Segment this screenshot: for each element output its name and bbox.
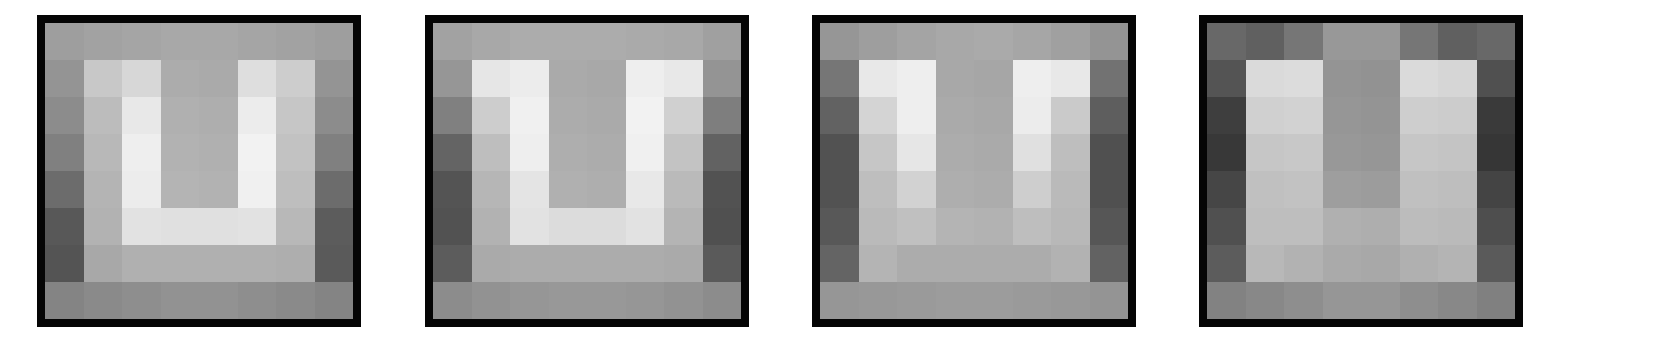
pixel-cell xyxy=(510,23,549,60)
pixel-cell xyxy=(45,208,84,245)
pixel-cell xyxy=(315,245,354,282)
pixel-cell xyxy=(1477,23,1516,60)
pixel-cell xyxy=(472,23,511,60)
pixel-cell xyxy=(587,208,626,245)
pixel-cell xyxy=(122,282,161,319)
pixel-cell xyxy=(276,134,315,171)
pixel-cell xyxy=(587,97,626,134)
pixel-cell xyxy=(626,282,665,319)
pixel-cell xyxy=(1013,282,1052,319)
pixel-cell xyxy=(1438,97,1477,134)
pixel-cell xyxy=(199,171,238,208)
pixel-cell xyxy=(549,60,588,97)
pixel-cell xyxy=(1051,208,1090,245)
pixel-cell xyxy=(897,134,936,171)
pixel-cell xyxy=(238,97,277,134)
pixel-cell xyxy=(820,97,859,134)
pixel-cell xyxy=(549,171,588,208)
pixel-cell xyxy=(1246,171,1285,208)
pixel-cell xyxy=(1361,245,1400,282)
pixel-cell xyxy=(1207,208,1246,245)
pixel-grid-2 xyxy=(425,15,749,327)
pixel-cell xyxy=(510,97,549,134)
pixel-cell xyxy=(1361,60,1400,97)
pixel-cell xyxy=(472,134,511,171)
pixel-cell xyxy=(587,60,626,97)
pixel-cell xyxy=(45,282,84,319)
pixel-cell xyxy=(276,245,315,282)
pixel-cell xyxy=(664,97,703,134)
pixel-cell xyxy=(859,97,898,134)
pixel-cell xyxy=(276,171,315,208)
pixel-cell xyxy=(549,134,588,171)
pixel-cell xyxy=(84,208,123,245)
pixel-cell xyxy=(276,97,315,134)
pixel-cell xyxy=(84,171,123,208)
pixel-cell xyxy=(1207,23,1246,60)
pixel-cell xyxy=(1477,208,1516,245)
pixel-cell xyxy=(820,208,859,245)
pixel-cell xyxy=(974,60,1013,97)
pixel-cell xyxy=(1051,171,1090,208)
pixel-cell xyxy=(433,60,472,97)
pixel-cell xyxy=(433,282,472,319)
pixel-cell xyxy=(1284,97,1323,134)
pixel-cell xyxy=(472,282,511,319)
pixel-cell xyxy=(315,208,354,245)
pixel-cell xyxy=(820,23,859,60)
pixel-cell xyxy=(587,245,626,282)
pixel-cell xyxy=(84,23,123,60)
pixel-cell xyxy=(587,23,626,60)
pixel-cell xyxy=(626,208,665,245)
pixel-cell xyxy=(820,60,859,97)
pixel-cell xyxy=(45,245,84,282)
pixel-cell xyxy=(1246,282,1285,319)
pixel-cell xyxy=(1400,208,1439,245)
pixel-cell xyxy=(199,23,238,60)
pixel-cell xyxy=(549,208,588,245)
pixel-cell xyxy=(1438,282,1477,319)
pixel-cell xyxy=(859,282,898,319)
pixel-cell xyxy=(1323,60,1362,97)
pixel-cell xyxy=(1361,282,1400,319)
pixel-cell xyxy=(1361,208,1400,245)
pixel-cell xyxy=(1477,171,1516,208)
pixel-cell xyxy=(1361,97,1400,134)
pixel-cell xyxy=(472,60,511,97)
pixel-cell xyxy=(1051,60,1090,97)
pixel-cell xyxy=(820,134,859,171)
pixel-cell xyxy=(84,282,123,319)
pixel-cell xyxy=(510,60,549,97)
pixel-cell xyxy=(45,60,84,97)
pixel-cell xyxy=(276,60,315,97)
pixel-cell xyxy=(199,134,238,171)
pixel-cell xyxy=(1284,282,1323,319)
pixel-cell xyxy=(1013,134,1052,171)
pixel-cell xyxy=(859,245,898,282)
pixel-cell xyxy=(1090,282,1129,319)
pixel-cell xyxy=(1323,282,1362,319)
pixel-cell xyxy=(161,171,200,208)
pixel-cell xyxy=(84,60,123,97)
pixel-cell xyxy=(510,134,549,171)
pixel-cell xyxy=(238,134,277,171)
pixel-cell xyxy=(859,208,898,245)
pixel-cell xyxy=(1323,97,1362,134)
pixel-cell xyxy=(1090,245,1129,282)
pixel-cell xyxy=(664,60,703,97)
pixel-cell xyxy=(1477,134,1516,171)
pixel-cell xyxy=(1323,245,1362,282)
pixel-cell xyxy=(626,245,665,282)
pixel-cell xyxy=(45,134,84,171)
pixel-cell xyxy=(1323,171,1362,208)
pixel-cell xyxy=(161,208,200,245)
pixel-cell xyxy=(1438,60,1477,97)
pixel-cell xyxy=(936,208,975,245)
pixel-cell xyxy=(1090,171,1129,208)
pixel-cell xyxy=(84,97,123,134)
pixel-cell xyxy=(974,171,1013,208)
pixel-cell xyxy=(433,23,472,60)
pixel-cell xyxy=(1246,60,1285,97)
pixel-cell xyxy=(510,208,549,245)
pixel-cell xyxy=(936,134,975,171)
